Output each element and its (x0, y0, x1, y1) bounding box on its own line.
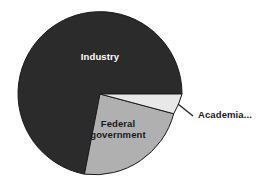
pie-label-academia: Academia... (198, 109, 262, 120)
pie-label-federal-government-line2: government (79, 129, 157, 140)
pie-chart: Industry Federal government Academia... (0, 0, 263, 191)
pie-label-industry: Industry (66, 51, 134, 62)
pie-label-federal-government: Federal government (79, 118, 157, 140)
academia-leader-line (178, 104, 193, 116)
pie-chart-canvas (0, 0, 263, 191)
pie-label-federal-government-line1: Federal (79, 118, 157, 129)
